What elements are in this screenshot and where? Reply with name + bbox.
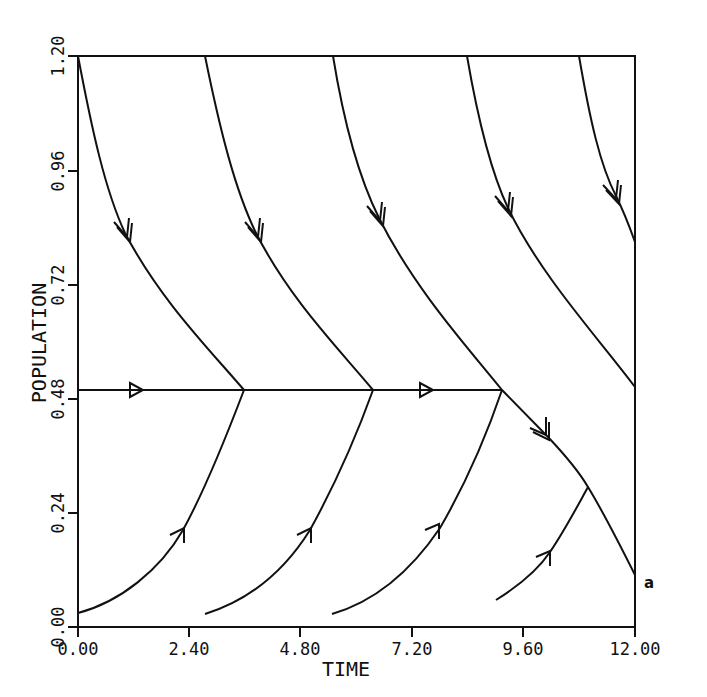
plot-frame	[78, 56, 635, 627]
x-axis-ticks	[78, 627, 635, 637]
x-tick-labels: 0.00 2.40 4.80 7.20 9.60 12.00	[58, 639, 661, 659]
upper-trajectories	[78, 56, 635, 575]
svg-text:0.72: 0.72	[48, 265, 68, 306]
svg-text:1.20: 1.20	[48, 36, 68, 77]
x-axis-title: TIME	[322, 657, 370, 681]
svg-text:2.40: 2.40	[169, 639, 210, 659]
lower-trajectories	[78, 390, 588, 614]
svg-text:9.60: 9.60	[503, 639, 544, 659]
svg-text:0.24: 0.24	[48, 493, 68, 534]
single-arrow-icons	[170, 524, 550, 566]
svg-text:0.00: 0.00	[48, 607, 68, 648]
phase-chart: 0.00 2.40 4.80 7.20 9.60 12.00 0.00 0.24…	[0, 0, 707, 697]
curve-annotation-a: a	[644, 574, 654, 592]
y-axis-ticks	[68, 56, 78, 627]
svg-text:0.96: 0.96	[48, 151, 68, 192]
svg-text:0.48: 0.48	[48, 379, 68, 420]
svg-text:4.80: 4.80	[280, 639, 321, 659]
y-tick-labels: 0.00 0.24 0.48 0.72 0.96 1.20	[48, 36, 68, 648]
y-axis-title: POPULATION	[27, 283, 51, 403]
svg-text:12.00: 12.00	[609, 639, 660, 659]
svg-text:7.20: 7.20	[392, 639, 433, 659]
double-arrow-icons	[114, 180, 621, 440]
